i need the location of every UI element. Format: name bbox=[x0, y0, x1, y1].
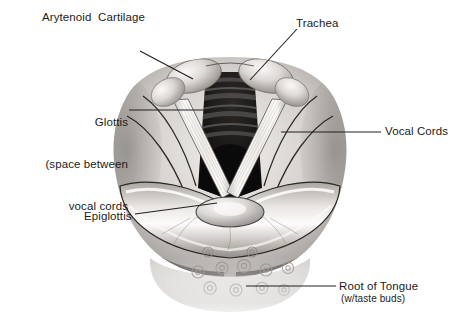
label-root-of-tongue: Root of Tongue bbox=[339, 279, 418, 293]
label-trachea: Trachea bbox=[296, 16, 338, 30]
label-root-of-tongue-sub: (w/taste buds) bbox=[341, 293, 405, 305]
root-of-tongue bbox=[140, 247, 320, 322]
larynx-diagram: Arytenoid Cartilage Glottis (space betwe… bbox=[0, 0, 460, 322]
label-vocal-cords: Vocal Cords bbox=[385, 124, 448, 138]
label-glottis-line2: (space between bbox=[45, 157, 128, 171]
label-epiglottis: Epiglottis bbox=[84, 209, 132, 223]
larynx-body bbox=[94, 50, 368, 290]
label-glottis-line1: Glottis bbox=[45, 115, 128, 129]
label-arytenoid-cartilage: Arytenoid Cartilage bbox=[42, 10, 145, 24]
